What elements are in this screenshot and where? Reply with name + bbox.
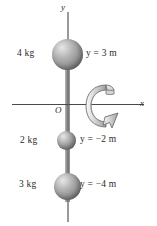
origin-label: O — [55, 105, 62, 115]
x-axis-label: x — [140, 98, 144, 108]
x-axis-line — [12, 104, 144, 105]
mass-sphere-4kg — [52, 39, 83, 70]
rotation-arrow-icon — [82, 81, 124, 131]
rod-segment-upper — [65, 60, 70, 136]
mass-sphere-3kg — [54, 173, 81, 200]
y-axis-label: y — [61, 2, 65, 12]
mass-label-2kg: 2 kg — [20, 135, 37, 145]
position-label-2kg: y = −2 m — [80, 134, 116, 144]
position-label-4kg: y = 3 m — [86, 48, 117, 58]
position-label-3kg: y = −4 m — [80, 179, 116, 189]
mass-label-3kg: 3 kg — [19, 179, 36, 189]
mass-sphere-2kg — [57, 131, 76, 150]
mass-label-4kg: 4 kg — [17, 48, 34, 58]
physics-figure: 4 kg 2 kg 3 kg y = 3 m y = −2 m y = −4 m… — [0, 0, 157, 226]
